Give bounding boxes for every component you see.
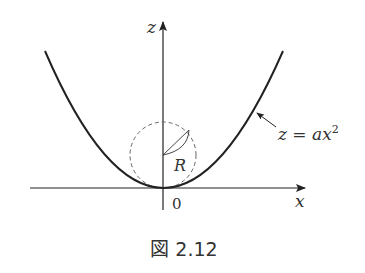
equation-label: z = ax2 <box>277 123 339 144</box>
radius-label: R <box>173 156 186 175</box>
parabola-figure: z x 0 R z = ax2 図 2.12 <box>0 0 365 273</box>
parabola-curve <box>45 51 283 188</box>
z-axis-label: z <box>146 17 157 37</box>
figure-caption: 図 2.12 <box>150 238 217 260</box>
equation-lhs: z = ax <box>277 124 332 144</box>
equation-exponent: 2 <box>332 123 339 136</box>
curve-leader-arrow <box>257 113 276 127</box>
origin-label: 0 <box>172 195 182 213</box>
x-axis-label: x <box>295 191 305 211</box>
